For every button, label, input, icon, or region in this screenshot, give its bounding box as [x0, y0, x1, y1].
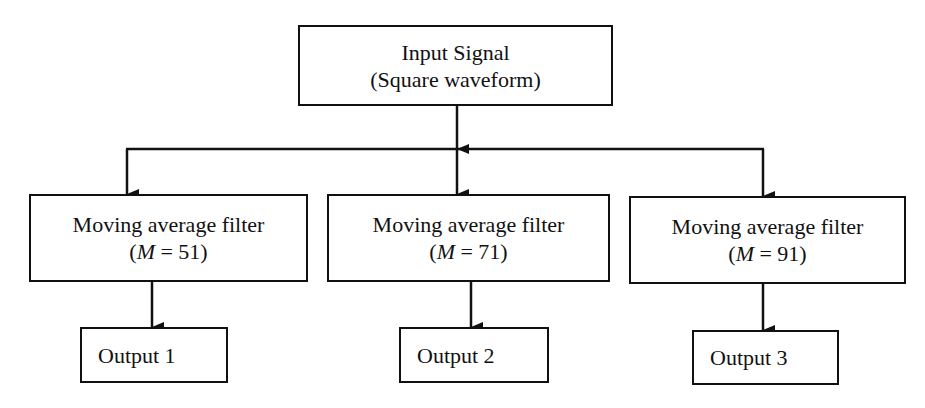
output-box-2: Output 2 [399, 327, 549, 383]
input-signal-subtitle: (Square waveform) [370, 66, 540, 93]
filter-param: (M = 71) [429, 238, 507, 265]
filter-box-2: Moving average filter (M = 71) [327, 194, 610, 282]
output-label: Output 2 [417, 342, 495, 369]
output-box-3: Output 3 [692, 330, 839, 385]
output-label: Output 3 [710, 344, 788, 371]
filter-param: (M = 91) [728, 240, 806, 267]
filter-label: Moving average filter [73, 211, 265, 238]
filter-box-3: Moving average filter (M = 91) [629, 196, 906, 284]
output-box-1: Output 1 [80, 327, 228, 383]
filter-label: Moving average filter [672, 213, 864, 240]
filter-param: (M = 51) [129, 238, 207, 265]
filter-label: Moving average filter [373, 211, 565, 238]
input-signal-box: Input Signal (Square waveform) [298, 25, 613, 106]
output-label: Output 1 [98, 342, 176, 369]
filter-box-1: Moving average filter (M = 51) [29, 194, 308, 282]
input-signal-title: Input Signal [401, 39, 509, 66]
